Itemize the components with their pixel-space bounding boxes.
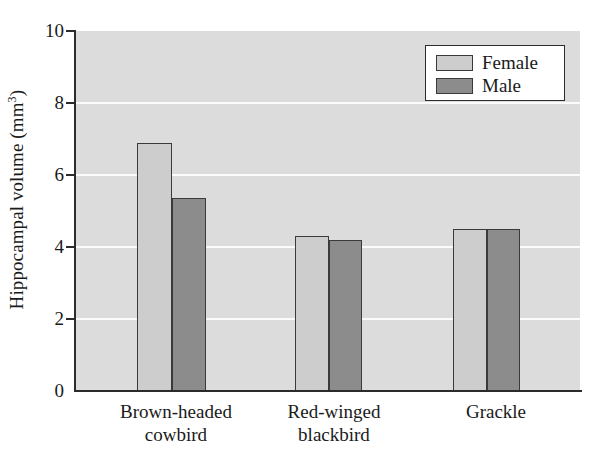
legend-label-female: Female: [482, 53, 538, 72]
y-axis-line: [74, 30, 76, 392]
x-axis-line: [74, 390, 582, 392]
x-label-grackle-line1: Grackle: [466, 401, 526, 422]
bar-grackle-female: [453, 229, 487, 391]
legend-row-female: Female: [436, 51, 564, 74]
legend-label-male: Male: [482, 76, 521, 95]
bar-brown-headed-cowbird-female: [137, 143, 172, 391]
x-label-grackle: Grackle: [406, 400, 586, 423]
bar-chart-figure: Hippocampal volume (mm3) 10 8 6 4 2 0: [0, 0, 599, 470]
bar-red-winged-blackbird-female: [295, 236, 329, 391]
x-label-red-winged-blackbird: Red-winged blackbird: [244, 400, 424, 446]
x-label-red-winged-blackbird-line2: blackbird: [244, 423, 424, 446]
x-label-brown-headed-cowbird-line1: Brown-headed: [120, 401, 232, 422]
legend-swatch-male-icon: [436, 78, 473, 94]
y-tick-label-6: 6: [4, 164, 64, 186]
x-label-red-winged-blackbird-line1: Red-winged: [288, 401, 381, 422]
chart-legend: Female Male: [425, 45, 565, 101]
y-tick-label-10: 10: [4, 20, 64, 42]
legend-swatch-female-icon: [436, 55, 473, 71]
y-tick-label-8: 8: [4, 92, 64, 114]
plot-area: Female Male: [76, 31, 580, 391]
bar-red-winged-blackbird-male: [329, 240, 362, 391]
x-label-brown-headed-cowbird-line2: cowbird: [86, 423, 266, 446]
y-axis-ticks: 10 8 6 4 2 0: [0, 0, 64, 470]
legend-row-male: Male: [436, 74, 564, 97]
y-tick-label-2: 2: [4, 308, 64, 330]
x-axis-labels: Brown-headed cowbird Red-winged blackbir…: [76, 396, 580, 466]
y-tick-label-4: 4: [4, 236, 64, 258]
y-tick-label-0: 0: [4, 380, 64, 402]
x-label-brown-headed-cowbird: Brown-headed cowbird: [86, 400, 266, 446]
gridline-8: [76, 102, 580, 104]
bar-brown-headed-cowbird-male: [172, 198, 206, 391]
bar-grackle-male: [487, 229, 520, 391]
